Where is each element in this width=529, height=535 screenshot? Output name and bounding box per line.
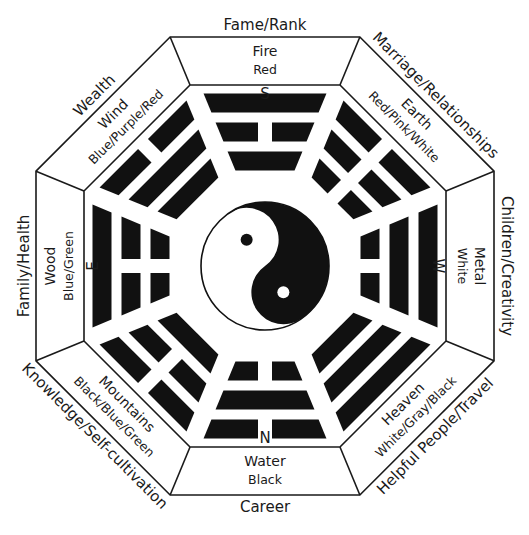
trigram-broken-line-left (151, 273, 170, 303)
trigram-broken-line-left (306, 159, 341, 194)
trigram-broken-line-right (272, 123, 314, 142)
life-area-south: Fame/Rank (224, 16, 307, 34)
trigram-broken-line-right (361, 273, 380, 303)
trigram-broken-line-left (122, 273, 141, 315)
colors-south: Red (253, 62, 277, 77)
yang-eye (241, 234, 253, 246)
sector-divider (446, 171, 494, 191)
trigram-north (204, 362, 327, 439)
trigram-broken-line-right (228, 362, 258, 381)
sector-divider (340, 447, 360, 495)
sector-divider (170, 447, 190, 495)
trigram-broken-line-right (151, 229, 170, 259)
trigram-solid-line (158, 307, 224, 373)
direction-west: W (429, 259, 447, 274)
element-east: Wood (42, 246, 58, 285)
sector-divider (36, 171, 84, 191)
element-south: Fire (253, 43, 278, 59)
trigram-south (204, 94, 327, 171)
element-west: Metal (472, 247, 488, 286)
trigram-broken-line-left (272, 362, 302, 381)
life-area-southwest: Marriage/Relationships (369, 28, 503, 162)
trigram-solid-line (216, 391, 315, 410)
life-area-west: Children/Creativity (498, 196, 516, 336)
trigram-east (93, 205, 170, 328)
sector-divider (446, 341, 494, 361)
trigram-broken-line-right (204, 420, 258, 439)
direction-east: E (84, 261, 102, 270)
sector-divider (36, 341, 84, 361)
colors-east: Blue/Green (61, 231, 76, 301)
colors-north: Black (248, 472, 283, 487)
element-north: Water (244, 453, 286, 469)
trigram-broken-line-left (216, 123, 258, 142)
sector-divider (170, 37, 190, 85)
life-area-northeast: Knowledge/Self-cultivation (18, 359, 171, 512)
trigram-broken-line-right (122, 217, 141, 259)
trigram-solid-line (390, 217, 409, 316)
trigram-broken-line-right (337, 190, 372, 225)
life-area-east: Family/Health (15, 215, 33, 318)
yin-eye (277, 286, 289, 298)
trigram-solid-line (228, 152, 303, 171)
life-area-north: Career (240, 498, 291, 516)
sector-divider (340, 37, 360, 85)
colors-west: White (455, 248, 470, 285)
trigram-broken-line-left (272, 420, 326, 439)
trigram-west (361, 205, 438, 328)
direction-south: S (260, 85, 270, 103)
yin-yang-icon (201, 202, 329, 330)
bagua-diagram: Fame/RankFireRedSMarriage/RelationshipsE… (0, 0, 529, 535)
trigram-broken-line-left (361, 229, 380, 259)
direction-north: N (259, 429, 270, 447)
